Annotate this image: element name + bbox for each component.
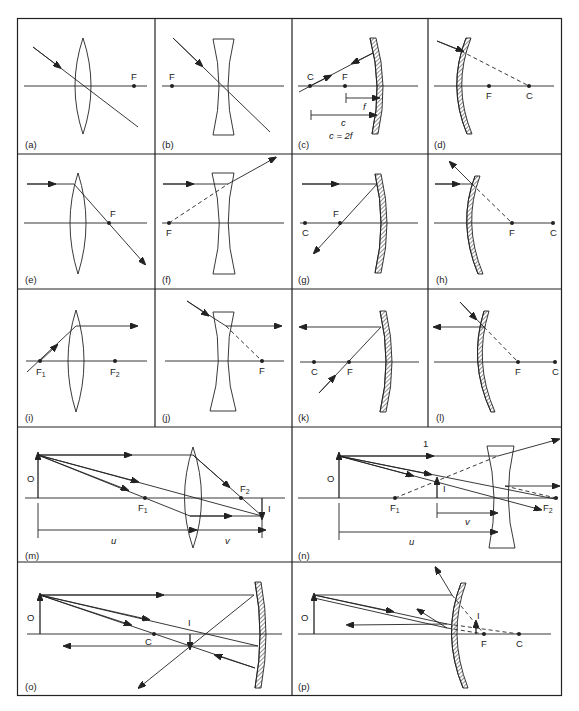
svg-text:c: c [341, 117, 346, 128]
svg-text:F2: F2 [110, 366, 120, 378]
panel-i: F1 F2 (i) [25, 310, 147, 423]
svg-text:F: F [131, 71, 137, 82]
panel-l: F C (l) [434, 302, 559, 423]
svg-text:C: C [145, 636, 152, 647]
svg-text:F: F [110, 208, 116, 219]
svg-text:F1: F1 [390, 502, 400, 514]
svg-text:C: C [311, 366, 318, 377]
svg-text:(p): (p) [298, 681, 310, 692]
svg-text:O: O [301, 612, 308, 623]
svg-text:(c): (c) [298, 139, 309, 150]
panel-c: C F f c c = 2f (c) [298, 38, 418, 150]
svg-text:I: I [443, 483, 446, 494]
panel-g: C F (g) [298, 174, 418, 285]
svg-text:F: F [169, 71, 175, 82]
svg-text:F: F [333, 208, 339, 219]
focal-point [132, 84, 136, 88]
svg-text:c = 2f: c = 2f [329, 130, 354, 141]
svg-text:(i): (i) [25, 412, 33, 423]
svg-text:F: F [515, 366, 521, 377]
svg-text:(f): (f) [162, 274, 171, 285]
panel-m: O I F1 F2 u v (m) [25, 447, 285, 561]
svg-text:u: u [111, 535, 117, 546]
svg-text:(m): (m) [25, 550, 39, 561]
svg-text:(o): (o) [25, 681, 37, 692]
svg-text:C: C [552, 366, 559, 377]
svg-text:(d): (d) [434, 139, 446, 150]
svg-text:F: F [481, 638, 487, 649]
svg-text:O: O [327, 473, 334, 484]
svg-text:1: 1 [423, 438, 428, 449]
svg-text:I: I [477, 610, 480, 621]
svg-text:C: C [550, 227, 557, 238]
panel-p: O I F C (p) [298, 570, 551, 692]
optics-figure: F (a) F (b) C F f c c = 2f (c) [0, 0, 579, 711]
svg-text:I: I [268, 503, 271, 514]
svg-text:f: f [363, 101, 367, 112]
svg-text:C: C [516, 638, 523, 649]
panel-a: F (a) [24, 38, 147, 150]
svg-text:F: F [347, 366, 353, 377]
svg-text:C: C [526, 90, 533, 101]
svg-text:F: F [166, 227, 172, 238]
svg-text:(k): (k) [298, 412, 309, 423]
panel-h: F C (h) [434, 164, 557, 285]
svg-text:(a): (a) [25, 139, 37, 150]
svg-text:C: C [307, 71, 314, 82]
svg-text:(b): (b) [162, 139, 174, 150]
svg-text:F2: F2 [543, 502, 553, 514]
panel-n: O 1 I F1 F2 v u (n) [298, 438, 558, 561]
panel-d: F C (d) [434, 38, 554, 150]
panel-k: C F (k) [298, 311, 419, 423]
svg-text:(l): (l) [436, 412, 444, 423]
svg-text:u: u [409, 536, 415, 547]
svg-text:F: F [509, 227, 515, 238]
panel-j: F (j) [162, 301, 284, 423]
panel-f: F (f) [162, 159, 284, 285]
svg-text:(g): (g) [298, 274, 310, 285]
svg-text:I: I [188, 617, 191, 628]
svg-text:v: v [225, 535, 231, 546]
panel-o: O I C (o) [25, 582, 282, 692]
svg-text:(e): (e) [25, 274, 37, 285]
svg-text:O: O [27, 473, 34, 484]
svg-text:F2: F2 [240, 483, 250, 495]
panel-b: F (b) [162, 38, 284, 150]
svg-text:F1: F1 [138, 502, 148, 514]
svg-text:O: O [27, 612, 34, 623]
svg-text:F: F [486, 90, 492, 101]
svg-text:v: v [465, 516, 471, 527]
svg-text:F1: F1 [36, 366, 46, 378]
svg-text:(n): (n) [298, 550, 310, 561]
svg-text:F: F [342, 71, 348, 82]
svg-text:(h): (h) [436, 274, 448, 285]
svg-text:C: C [302, 227, 309, 238]
svg-text:(j): (j) [162, 412, 170, 423]
svg-text:F: F [259, 365, 265, 376]
panel-e: F (e) [24, 173, 147, 285]
